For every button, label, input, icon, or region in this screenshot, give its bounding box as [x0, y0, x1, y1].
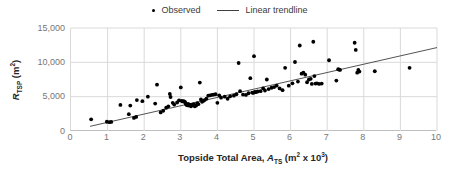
data-point [127, 112, 131, 116]
x-axis-title-lead: Topside Total Area, [178, 152, 267, 163]
x-axis-tick-label: 8 [360, 133, 365, 142]
data-point [161, 109, 165, 113]
gridlines [71, 28, 437, 131]
data-point [89, 117, 93, 121]
data-point [275, 84, 279, 88]
data-point [358, 70, 362, 74]
data-point [327, 58, 331, 62]
data-point [320, 82, 324, 86]
data-point [134, 115, 138, 119]
data-point [354, 48, 358, 52]
data-point [169, 95, 173, 99]
data-point [311, 40, 315, 44]
data-point [310, 82, 314, 86]
data-point [135, 98, 139, 102]
data-point [216, 101, 220, 105]
x-axis-tick-label: 1 [104, 133, 109, 142]
x-axis-tick-label: 2 [141, 133, 146, 142]
data-point [373, 69, 377, 73]
y-axis-tick-label: 10,000 [32, 58, 65, 67]
data-point [309, 77, 313, 81]
x-axis-tick-label: 0 [67, 133, 72, 142]
y-axis-title: RTSP (m2) [9, 44, 23, 116]
line-marker-icon [217, 10, 239, 11]
y-axis-title-unit-close: ) [10, 60, 21, 63]
y-axis-title-subscript: TSP [16, 81, 23, 94]
y-axis-tick-label: 15,000 [32, 24, 65, 33]
x-axis-tick-label: 4 [214, 133, 219, 142]
data-point [214, 92, 218, 96]
data-point [155, 83, 159, 87]
data-point [128, 104, 132, 108]
data-point [196, 102, 200, 106]
data-point [298, 44, 302, 48]
data-point [109, 120, 113, 124]
dot-marker-icon [152, 9, 155, 12]
x-axis-title: Topside Total Area, ATS (m2 x 103) [70, 151, 436, 165]
y-axis-title-unit-open: (m [10, 67, 21, 81]
data-point [153, 102, 157, 106]
x-axis-tick-labels: 012345678910 [0, 133, 460, 147]
data-point [166, 104, 170, 108]
data-point [408, 66, 412, 70]
x-axis-tick-label: 7 [324, 133, 329, 142]
x-axis-title-unit-open: (m [282, 152, 296, 163]
x-axis-tick-label: 10 [431, 133, 441, 142]
data-point [238, 89, 242, 93]
data-point [119, 103, 123, 107]
data-point [237, 61, 241, 65]
data-point [228, 94, 232, 98]
data-point [287, 84, 291, 88]
data-point [263, 89, 267, 93]
data-point [252, 54, 256, 58]
y-axis-title-symbol: R [10, 93, 21, 100]
x-axis-tick-label: 3 [177, 133, 182, 142]
legend-label-linear-trendline: Linear trendline [245, 6, 307, 15]
data-point [146, 95, 150, 99]
legend-entry-observed[interactable]: Observed [152, 6, 200, 15]
x-axis-title-symbol: A [267, 152, 274, 163]
x-axis-tick-label: 6 [287, 133, 292, 142]
data-point [353, 41, 357, 45]
data-point [296, 80, 300, 84]
scatter-chart: Observed Linear trendline RTSP (m2) 05,0… [0, 0, 460, 171]
data-point [338, 68, 342, 72]
x-axis-tick-label: 9 [397, 133, 402, 142]
data-point [312, 74, 316, 78]
data-point [303, 73, 307, 77]
data-point [198, 81, 202, 85]
x-axis-title-unit-mid: x 10 [300, 152, 321, 163]
data-point [219, 96, 223, 100]
chart-legend: Observed Linear trendline [0, 1, 460, 19]
data-point [265, 78, 269, 82]
plot-area [70, 28, 436, 131]
y-axis-title-unit-exp: 2 [9, 63, 16, 67]
plot-canvas [71, 28, 437, 131]
x-axis-title-subscript: TS [274, 158, 282, 165]
x-axis-title-unit-close: ) [325, 152, 328, 163]
data-point [293, 60, 297, 64]
data-point [247, 91, 251, 95]
data-point [248, 76, 252, 80]
data-point [179, 85, 183, 89]
y-axis-tick-label: 5,000 [32, 92, 65, 101]
data-point [334, 79, 338, 83]
legend-label-observed: Observed [161, 6, 200, 15]
data-point [291, 81, 295, 85]
data-point [140, 99, 144, 103]
data-point [283, 66, 287, 70]
data-points-group [89, 40, 411, 124]
data-point [235, 92, 239, 96]
x-axis-tick-label: 5 [250, 133, 255, 142]
legend-entry-linear-trendline[interactable]: Linear trendline [217, 6, 307, 15]
data-point [281, 88, 285, 92]
